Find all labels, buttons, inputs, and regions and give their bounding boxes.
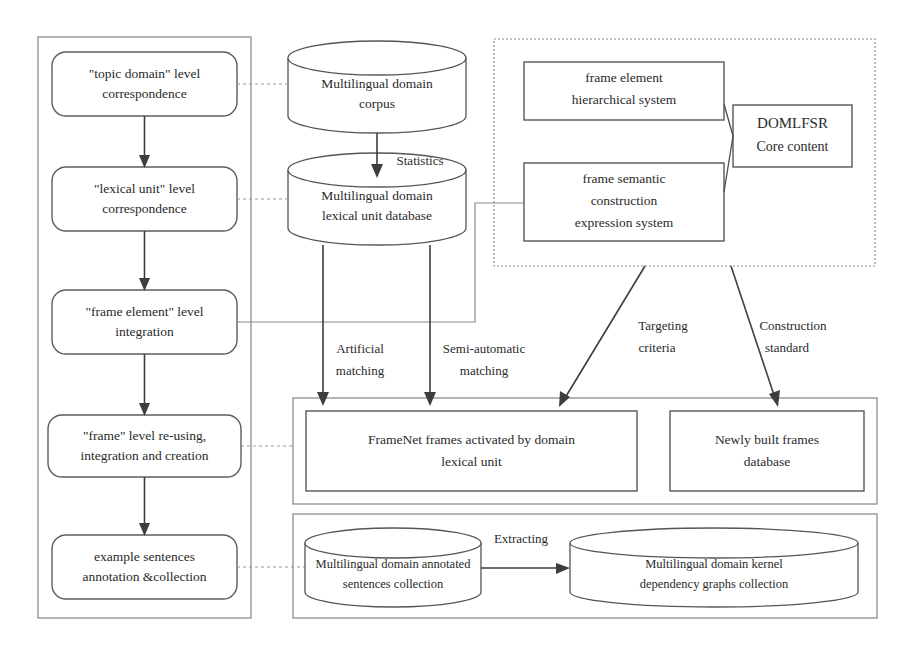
cylinder-annotated-line1: Multilingual domain annotated xyxy=(316,557,472,571)
edge-label-semi-automatic-line2: matching xyxy=(460,363,509,378)
step-box-example-sentences-line1: example sentences xyxy=(94,549,195,564)
cylinder-lexical-db-line2: lexical unit database xyxy=(322,208,432,223)
edge-label-extracting: Extracting xyxy=(494,531,549,546)
diagram-root: "topic domain" level correspondence "lex… xyxy=(0,0,919,655)
flow-arrow-semi-automatic-matching xyxy=(424,245,436,406)
step-box-frame-level[interactable] xyxy=(48,415,241,477)
step-box-topic-domain-line1: "topic domain" level xyxy=(89,66,201,81)
step-box-frame-element-line2: integration xyxy=(115,324,174,339)
edge-label-construction-standard-line2: standard xyxy=(765,340,810,355)
cylinder-corpus-line2: corpus xyxy=(359,96,395,111)
box-newly-built-line2: database xyxy=(744,454,790,469)
edge-label-artificial-matching-line1: Artificial xyxy=(336,341,384,356)
step-box-lexical-unit-line1: "lexical unit" level xyxy=(94,181,195,196)
link-hierarchical-to-domlfsr xyxy=(724,104,733,136)
box-frame-semantic-line3: expression system xyxy=(575,215,674,230)
step-box-topic-domain[interactable] xyxy=(52,52,237,116)
link-framesemantic-to-domlfsr xyxy=(724,136,733,192)
step-box-example-sentences-line2: annotation &collection xyxy=(82,569,206,584)
cylinder-annotated-line2: sentences collection xyxy=(343,577,444,591)
flow-arrow-extracting xyxy=(481,563,570,574)
flow-arrow-artificial-matching xyxy=(317,245,329,406)
cylinder-annotated-sentences-collection[interactable]: Multilingual domain annotated sentences … xyxy=(305,528,481,607)
flow-arrow-construction-standard xyxy=(731,266,780,407)
edge-label-targeting-criteria-line2: criteria xyxy=(639,340,676,355)
flow-arrow-frame-to-sentences xyxy=(139,477,150,536)
cylinder-corpus-line1: Multilingual domain xyxy=(321,76,433,91)
box-framenet-line1: FrameNet frames activated by domain xyxy=(368,432,575,447)
step-box-frame-element[interactable] xyxy=(52,290,237,354)
box-framenet-line2: lexical unit xyxy=(441,454,502,469)
flow-arrow-topic-to-lexical xyxy=(139,116,150,168)
edge-label-artificial-matching-line2: matching xyxy=(336,363,385,378)
box-domlfsr-line2: Core content xyxy=(757,139,829,154)
edge-label-targeting-criteria-line1: Targeting xyxy=(638,318,688,333)
architecture-diagram: "topic domain" level correspondence "lex… xyxy=(0,0,919,655)
cylinder-kernel-line2: dependency graphs collection xyxy=(640,577,789,591)
step-box-example-sentences[interactable] xyxy=(52,535,237,599)
flow-arrow-targeting-criteria xyxy=(559,266,645,407)
cylinder-lexical-db-line1: Multilingual domain xyxy=(321,188,433,203)
step-box-frame-level-line2: integration and creation xyxy=(80,448,208,463)
edge-label-construction-standard-line1: Construction xyxy=(759,318,827,333)
flow-arrow-lexical-to-frame-element xyxy=(139,231,150,291)
edge-label-statistics: Statistics xyxy=(397,153,444,168)
cylinder-kernel-line1: Multilingual domain kernel xyxy=(645,557,783,571)
cylinder-multilingual-domain-corpus[interactable]: Multilingual domain corpus xyxy=(288,41,466,133)
flow-arrow-frame-element-to-frame xyxy=(139,354,150,416)
cylinder-kernel-dependency-graphs-collection[interactable]: Multilingual domain kernel dependency gr… xyxy=(570,528,858,607)
box-frame-semantic-line2: construction xyxy=(591,193,658,208)
step-box-lexical-unit-line2: correspondence xyxy=(102,201,187,216)
box-frame-element-hierarchical-line2: hierarchical system xyxy=(572,92,677,107)
box-frame-semantic-line1: frame semantic xyxy=(583,171,666,186)
box-domlfsr-core-content[interactable] xyxy=(733,105,852,167)
box-domlfsr-line1: DOMLFSR xyxy=(757,115,828,131)
edge-label-semi-automatic-line1: Semi-automatic xyxy=(443,341,526,356)
box-frame-element-hierarchical-line1: frame element xyxy=(585,70,663,85)
step-box-frame-level-line1: "frame" level re-using, xyxy=(83,428,206,443)
step-box-lexical-unit[interactable] xyxy=(52,167,237,231)
box-newly-built-line1: Newly built frames xyxy=(715,432,819,447)
step-box-frame-element-line1: "frame element" level xyxy=(85,304,203,319)
box-newly-built-frames-database[interactable] xyxy=(670,411,864,491)
step-box-topic-domain-line2: correspondence xyxy=(102,86,187,101)
box-framenet-frames-activated[interactable] xyxy=(306,411,637,491)
